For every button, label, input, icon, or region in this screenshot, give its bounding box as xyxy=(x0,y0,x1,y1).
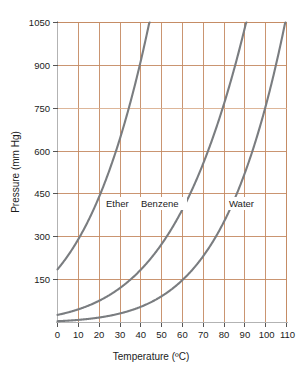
y-tick-label: 450 xyxy=(34,188,50,199)
x-tick-label: 20 xyxy=(94,329,105,340)
y-axis-title: Pressure (mm Hg) xyxy=(10,131,21,213)
x-tick-label: 10 xyxy=(73,329,84,340)
curve-label-water: Water xyxy=(229,198,254,209)
vapor-pressure-chart: 1050 900 750 600 450 300 150 0 10 20 30 … xyxy=(0,0,301,377)
y-tick-labels: 1050 900 750 600 450 300 150 xyxy=(29,17,50,285)
x-tick-label: 30 xyxy=(115,329,126,340)
curve-label-benzene: Benzene xyxy=(141,198,179,209)
x-tick-label: 0 xyxy=(55,329,60,340)
plot-area xyxy=(58,23,287,323)
x-tick-marks xyxy=(58,323,287,328)
x-axis-title: Temperature (ºC) xyxy=(113,351,189,362)
y-tick-label: 900 xyxy=(34,60,50,71)
x-tick-labels: 0 10 20 30 40 50 60 70 80 90 100 110 xyxy=(55,329,295,340)
y-tick-marks xyxy=(53,23,58,280)
curve-label-ether: Ether xyxy=(106,198,129,209)
x-tick-label: 110 xyxy=(280,329,295,340)
x-tick-label: 60 xyxy=(177,329,188,340)
y-tick-label: 750 xyxy=(34,103,50,114)
y-tick-label: 1050 xyxy=(29,17,50,28)
x-tick-label: 40 xyxy=(136,329,147,340)
x-tick-label: 50 xyxy=(156,329,167,340)
y-tick-label: 300 xyxy=(34,231,50,242)
chart-svg: 1050 900 750 600 450 300 150 0 10 20 30 … xyxy=(0,0,301,377)
x-tick-label: 80 xyxy=(219,329,230,340)
x-tick-label: 90 xyxy=(240,329,251,340)
y-tick-label: 600 xyxy=(34,146,50,157)
y-tick-label: 150 xyxy=(34,274,50,285)
x-tick-label: 100 xyxy=(259,329,275,340)
curve-annotations: Ether Benzene Water xyxy=(105,197,261,210)
x-tick-label: 70 xyxy=(198,329,209,340)
